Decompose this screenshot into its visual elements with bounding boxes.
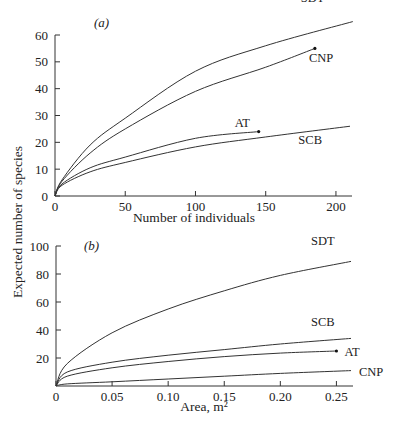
y-tick-label: 30 (35, 108, 48, 123)
x-tick-label: 150 (256, 199, 276, 214)
x-tick-label: 50 (119, 199, 132, 214)
y-tick-label: 0 (42, 189, 49, 204)
y-tick-label: 40 (35, 81, 48, 96)
x-tick-label: 0.25 (325, 389, 348, 404)
species-accumulation-figure: Expected number of species (a) 010203040… (0, 0, 393, 424)
y-tick-label: 20 (36, 351, 49, 366)
y-tick-label: 60 (36, 295, 49, 310)
series-label-cnp: CNP (309, 51, 333, 65)
panel-a: (a) 0102030405060050100150200 SDTCNPATSC… (35, 0, 353, 225)
panel-a-axes (55, 35, 352, 196)
series-label-sdt: SDT (301, 0, 325, 5)
curve-sdt (55, 22, 353, 196)
curve-end-marker (257, 130, 260, 133)
y-tick-label: 100 (30, 239, 50, 254)
panel-b-label: (b) (84, 238, 99, 253)
y-axis-label: Expected number of species (10, 146, 25, 298)
panel-b-axes (56, 246, 353, 386)
panel-a-tick-labels: 0102030405060050100150200 (35, 28, 346, 215)
panel-b: (b) 2040608010000.050.100.150.200.25 SDT… (30, 234, 384, 414)
curve-at (56, 351, 336, 386)
y-tick-label: 60 (35, 28, 48, 43)
curve-cnp (56, 371, 351, 386)
curve-at (55, 132, 259, 196)
y-tick-label: 40 (36, 323, 49, 338)
x-tick-label: 0.05 (101, 389, 124, 404)
y-tick-label: 50 (35, 54, 48, 69)
series-label-scb: SCB (298, 133, 322, 147)
curve-cnp (55, 48, 315, 196)
x-tick-label: 0 (52, 199, 59, 214)
series-label-cnp: CNP (359, 365, 383, 379)
curve-end-marker (335, 349, 338, 352)
series-label-scb: SCB (311, 315, 335, 329)
x-tick-label: 0.20 (269, 389, 292, 404)
y-tick-label: 20 (35, 135, 48, 150)
curve-end-marker (313, 47, 316, 50)
panel-a-label: (a) (94, 15, 109, 30)
panel-a-x-axis-label: Number of individuals (133, 210, 255, 225)
curve-sdt (56, 261, 351, 386)
x-tick-label: 0.10 (157, 389, 180, 404)
y-tick-label: 10 (35, 162, 48, 177)
series-label-at: AT (344, 345, 360, 359)
series-label-at: AT (235, 116, 251, 130)
series-label-sdt: SDT (311, 234, 335, 248)
curve-scb (56, 338, 351, 386)
x-tick-label: 0 (53, 389, 60, 404)
panel-b-x-axis-label: Area, m² (180, 399, 228, 414)
x-tick-label: 200 (326, 199, 346, 214)
panel-b-curves: SDTSCBATCNP (56, 234, 383, 386)
panel-b-tick-labels: 2040608010000.050.100.150.200.25 (30, 239, 348, 405)
y-tick-label: 80 (36, 267, 49, 282)
